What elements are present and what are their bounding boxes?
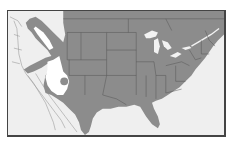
map-canvas: [8, 11, 224, 135]
range-map: [7, 10, 226, 137]
isolated-range-dot: [60, 77, 68, 85]
